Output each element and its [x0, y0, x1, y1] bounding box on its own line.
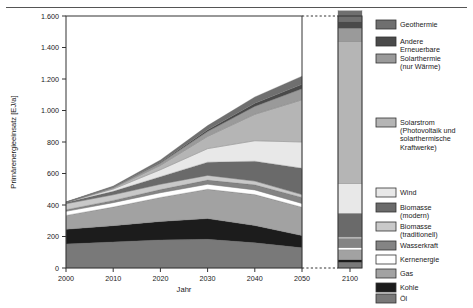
y-axis: 02004006008001.0001.2001.4001.600 — [41, 12, 66, 273]
y-tick-label-3: 600 — [47, 169, 59, 178]
legend-swatch-2 — [376, 54, 396, 63]
legend-label-7: Wasserkraft — [400, 241, 438, 250]
legend-item-9[interactable]: Gas — [376, 269, 414, 278]
legend-item-11[interactable]: Öl — [376, 294, 408, 303]
legend-label-11: Öl — [400, 294, 408, 303]
bar-2100-5 — [338, 237, 362, 239]
y-tick-label-7: 1.400 — [41, 43, 59, 52]
bar-2100-10 — [338, 21, 362, 28]
y-tick-label-1: 200 — [47, 232, 59, 241]
x-tick-label-0: 2000 — [58, 274, 74, 283]
y-tick-label-5: 1.000 — [41, 106, 59, 115]
y-tick-label-2: 400 — [47, 201, 59, 210]
legend-item-5[interactable]: Biomasse(modern) — [376, 203, 432, 220]
legend-swatch-6 — [376, 222, 396, 231]
legend-swatch-3 — [376, 118, 396, 127]
bar-2100-2 — [338, 250, 362, 260]
x-tick-label-2100: 2100 — [342, 274, 358, 283]
legend-label-8: Kernenergie — [400, 255, 439, 264]
area-series-group — [66, 76, 302, 268]
legend-swatch-11 — [376, 294, 396, 303]
legend-item-2[interactable]: Solarthermie(nur Wärme) — [376, 54, 441, 71]
legend-item-10[interactable]: Kohle — [376, 283, 418, 292]
legend-swatch-4 — [376, 188, 396, 197]
x-tick-label-4: 2040 — [247, 274, 263, 283]
figure-container: 02004006008001.0001.2001.4001.600Primäre… — [0, 0, 473, 308]
legend-label-9: Gas — [400, 269, 414, 278]
legend-swatch-9 — [376, 269, 396, 278]
legend-label-1: Erneuerbare — [400, 45, 440, 54]
x-tick-label-2: 2020 — [152, 274, 168, 283]
legend-swatch-7 — [376, 241, 396, 250]
legend-label-3: Kraftwerke) — [400, 143, 437, 152]
legend-label-0: Geothermie — [400, 20, 438, 29]
bar-2100-4 — [338, 239, 362, 248]
legend-swatch-10 — [376, 283, 396, 292]
bar-2100-6 — [338, 213, 362, 237]
bar-2100-1 — [338, 260, 362, 263]
legend-item-7[interactable]: Wasserkraft — [376, 241, 438, 250]
bar-2100-9 — [338, 28, 362, 42]
x-axis: 2000201020202030204020502100 — [58, 268, 358, 283]
legend-label-4: Wind — [400, 188, 416, 197]
legend-swatch-8 — [376, 255, 396, 264]
bar-2100-8 — [338, 42, 362, 184]
x-tick-label-1: 2010 — [105, 274, 121, 283]
legend-item-1[interactable]: AndereErneuerbare — [376, 37, 440, 54]
x-tick-label-5: 2050 — [294, 274, 310, 283]
legend-label-10: Kohle — [400, 283, 418, 292]
y-tick-label-4: 800 — [47, 138, 59, 147]
legend-label-5: (modern) — [400, 211, 429, 220]
legend-item-4[interactable]: Wind — [376, 188, 416, 197]
y-tick-label-0: 0 — [55, 264, 59, 273]
y-tick-label-8: 1.600 — [41, 12, 59, 21]
legend-item-3[interactable]: Solarstrom(Photovoltaik undsolarthermisc… — [376, 118, 456, 152]
bar-2100-3 — [338, 248, 362, 250]
legend: GeothermieAndereErneuerbareSolarthermie(… — [376, 20, 456, 303]
legend-swatch-5 — [376, 203, 396, 212]
bar-2100-0 — [338, 262, 362, 268]
legend-item-6[interactable]: Biomasse(traditionell) — [376, 222, 438, 239]
legend-swatch-1 — [376, 37, 396, 46]
legend-swatch-0 — [376, 20, 396, 29]
legend-label-6: (traditionell) — [400, 230, 438, 239]
x-tick-label-3: 2030 — [200, 274, 216, 283]
area-series-group-2100 — [338, 11, 362, 268]
legend-item-0[interactable]: Geothermie — [376, 20, 438, 29]
legend-item-8[interactable]: Kernenergie — [376, 255, 439, 264]
y-tick-label-6: 1.200 — [41, 75, 59, 84]
stacked-area-chart: 02004006008001.0001.2001.4001.600Primäre… — [0, 0, 473, 308]
x-axis-label: Jahr — [177, 285, 192, 294]
legend-label-2: (nur Wärme) — [400, 62, 440, 71]
y-axis-label: Primärenergieeinsatz [EJ/a] — [9, 95, 18, 188]
bar-2100-7 — [338, 183, 362, 213]
